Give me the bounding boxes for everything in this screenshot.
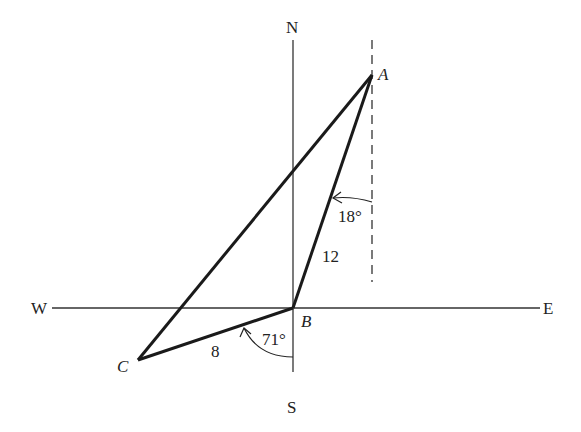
label-angle-A: 18° — [338, 207, 362, 226]
bearing-diagram: N S W E A B C 12 8 18° 71° — [0, 0, 581, 432]
label-west: W — [31, 299, 48, 318]
side-CA — [138, 75, 372, 360]
label-south: S — [287, 398, 296, 417]
arrowhead-B-icon — [240, 328, 251, 337]
label-east: E — [543, 299, 553, 318]
label-point-C: C — [117, 357, 129, 376]
label-north: N — [286, 18, 298, 37]
label-side-BC: 8 — [211, 342, 220, 361]
label-angle-B: 71° — [262, 330, 286, 349]
label-point-B: B — [301, 312, 312, 331]
label-side-AB: 12 — [322, 247, 339, 266]
label-point-A: A — [377, 65, 389, 84]
side-AB — [293, 75, 372, 308]
